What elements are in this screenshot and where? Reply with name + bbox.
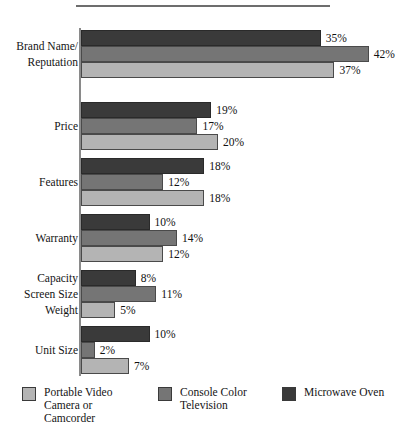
bar-chart: Brand Name/ Reputation35%42%37%Price19%1… (0, 0, 412, 436)
bar-value-label: 5% (120, 302, 135, 318)
legend-item[interactable]: Microwave Oven (282, 386, 384, 401)
legend-label: Portable Video Camera or Camcorder (44, 386, 112, 425)
bar (81, 46, 369, 62)
bar (81, 286, 156, 302)
category-label: Price (0, 118, 78, 134)
bar (81, 326, 150, 342)
category-label: Warranty (0, 230, 78, 246)
bar (81, 270, 136, 286)
bar (81, 118, 197, 134)
bar (81, 214, 150, 230)
bar-value-label: 12% (168, 174, 189, 190)
legend-label: Microwave Oven (304, 386, 384, 399)
legend-item[interactable]: Portable Video Camera or Camcorder (22, 386, 112, 425)
bar (81, 230, 177, 246)
bar-value-label: 2% (100, 342, 115, 358)
bar-value-label: 7% (134, 358, 149, 374)
bar-value-label: 42% (374, 46, 395, 62)
legend-swatch-icon (282, 387, 296, 401)
bar (81, 62, 334, 78)
category-label: Brand Name/ Reputation (0, 38, 78, 70)
bar (81, 102, 211, 118)
bar-value-label: 19% (216, 102, 237, 118)
top-divider-rule (76, 5, 330, 7)
bar (81, 358, 129, 374)
bar (81, 246, 163, 262)
bar (81, 174, 163, 190)
bar-value-label: 8% (141, 270, 156, 286)
bar-value-label: 14% (182, 230, 203, 246)
bar-value-label: 20% (223, 134, 244, 150)
bar-value-label: 10% (155, 326, 176, 342)
bar (81, 342, 95, 358)
bar-value-label: 17% (202, 118, 223, 134)
bar-value-label: 18% (209, 190, 230, 206)
bar (81, 158, 204, 174)
legend-label: Console Color Television (180, 386, 247, 412)
category-label: Capacity Screen Size Weight (0, 270, 78, 318)
plot-area: Brand Name/ Reputation35%42%37%Price19%1… (0, 24, 412, 374)
bar-value-label: 18% (209, 158, 230, 174)
bar (81, 134, 218, 150)
chart-legend: Portable Video Camera or CamcorderConsol… (0, 386, 412, 436)
bar (81, 190, 204, 206)
category-label: Unit Size (0, 342, 78, 358)
bar-value-label: 37% (339, 62, 360, 78)
legend-swatch-icon (22, 387, 36, 401)
bar (81, 30, 321, 46)
category-label: Features (0, 174, 78, 190)
bar (81, 302, 115, 318)
bar-value-label: 11% (161, 286, 182, 302)
bar-value-label: 12% (168, 246, 189, 262)
bar-value-label: 35% (326, 30, 347, 46)
bar-value-label: 10% (155, 214, 176, 230)
legend-swatch-icon (158, 387, 172, 401)
legend-item[interactable]: Console Color Television (158, 386, 247, 412)
